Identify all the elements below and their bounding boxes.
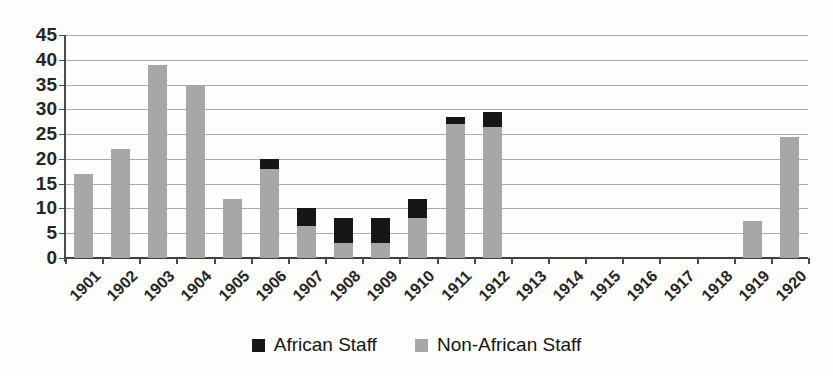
x-axis-tick-label: 1912 xyxy=(475,267,513,305)
x-axis-tick xyxy=(102,258,104,264)
x-axis-tick-label: 1903 xyxy=(141,267,179,305)
y-axis-tick-label: 15 xyxy=(0,173,57,195)
x-axis-tick-label: 1917 xyxy=(661,267,699,305)
legend-label: African Staff xyxy=(274,334,377,356)
x-axis-tick-label: 1905 xyxy=(215,267,253,305)
y-axis-tick-label: 25 xyxy=(0,123,57,145)
x-axis-tick-label: 1909 xyxy=(364,267,402,305)
x-axis-tick-label: 1910 xyxy=(401,267,439,305)
x-axis-tick-label: 1918 xyxy=(698,267,736,305)
x-axis-tick xyxy=(511,258,513,264)
x-axis-tick-label: 1915 xyxy=(587,267,625,305)
bar-segment-african-staff xyxy=(371,218,390,243)
bar-segment-african-staff xyxy=(408,199,427,219)
staff-stacked-bar-chart: 0510152025303540451901190219031904190519… xyxy=(0,0,833,376)
bar-segment-non-african-staff xyxy=(297,226,316,258)
legend-swatch-african-staff xyxy=(252,339,265,352)
x-axis-tick-label: 1913 xyxy=(512,267,550,305)
x-axis-tick xyxy=(437,258,439,264)
x-axis-tick xyxy=(734,258,736,264)
x-axis-tick xyxy=(251,258,253,264)
bar-segment-non-african-staff xyxy=(74,174,93,258)
bar-segment-non-african-staff xyxy=(111,149,130,258)
x-axis-tick xyxy=(288,258,290,264)
bar-segment-african-staff xyxy=(260,159,279,169)
y-axis-tick-label: 10 xyxy=(0,197,57,219)
bar-segment-non-african-staff xyxy=(186,85,205,258)
x-axis-tick xyxy=(808,258,810,264)
bar-segment-non-african-staff xyxy=(408,218,427,258)
gridline xyxy=(65,134,808,135)
gridline xyxy=(65,109,808,110)
x-axis-tick xyxy=(585,258,587,264)
x-axis-tick xyxy=(622,258,624,264)
x-axis-tick-label: 1908 xyxy=(326,267,364,305)
gridline xyxy=(65,85,808,86)
x-axis-tick xyxy=(548,258,550,264)
x-axis-tick-label: 1911 xyxy=(439,267,476,304)
x-axis-tick-label: 1902 xyxy=(104,267,142,305)
bar-segment-non-african-staff xyxy=(483,127,502,258)
legend: African StaffNon-African Staff xyxy=(0,334,833,356)
x-axis-tick-label: 1901 xyxy=(66,267,104,305)
bar-segment-non-african-staff xyxy=(446,124,465,258)
bar-segment-non-african-staff xyxy=(334,243,353,258)
bar-segment-african-staff xyxy=(446,117,465,124)
y-axis-tick-label: 0 xyxy=(0,247,57,269)
y-axis-line xyxy=(64,35,66,262)
x-axis-tick xyxy=(325,258,327,264)
x-axis-tick xyxy=(659,258,661,264)
x-axis-tick xyxy=(474,258,476,264)
legend-label: Non-African Staff xyxy=(437,334,581,356)
y-axis-tick-label: 30 xyxy=(0,98,57,120)
y-axis-tick-label: 5 xyxy=(0,222,57,244)
x-axis-tick xyxy=(65,258,67,264)
legend-swatch-non-african-staff xyxy=(415,339,428,352)
x-axis-tick xyxy=(697,258,699,264)
y-axis-tick-label: 45 xyxy=(0,24,57,46)
x-axis-tick-label: 1907 xyxy=(289,267,327,305)
gridline xyxy=(65,60,808,61)
bar-segment-african-staff xyxy=(483,112,502,127)
bar-segment-non-african-staff xyxy=(223,199,242,258)
gridline xyxy=(65,233,808,234)
x-axis-tick xyxy=(399,258,401,264)
x-axis-tick xyxy=(362,258,364,264)
bar-segment-african-staff xyxy=(334,218,353,243)
bar-segment-non-african-staff xyxy=(743,221,762,258)
gridline xyxy=(65,184,808,185)
legend-item-african-staff: African Staff xyxy=(252,334,377,356)
x-axis-tick xyxy=(214,258,216,264)
x-axis-tick-label: 1916 xyxy=(624,267,662,305)
y-axis-tick-label: 20 xyxy=(0,148,57,170)
x-axis-tick xyxy=(176,258,178,264)
bar-segment-african-staff xyxy=(297,208,316,225)
bar-segment-non-african-staff xyxy=(148,65,167,258)
bar-segment-non-african-staff xyxy=(260,169,279,258)
x-axis-tick-label: 1904 xyxy=(178,267,216,305)
y-axis-tick-label: 35 xyxy=(0,74,57,96)
x-axis-tick-label: 1914 xyxy=(549,267,587,305)
legend-item-non-african-staff: Non-African Staff xyxy=(415,334,581,356)
gridline xyxy=(65,159,808,160)
x-axis-tick-label: 1919 xyxy=(735,267,773,305)
gridline xyxy=(65,35,808,36)
gridline xyxy=(65,208,808,209)
y-axis-tick-label: 40 xyxy=(0,49,57,71)
x-axis-tick xyxy=(771,258,773,264)
x-axis-tick xyxy=(139,258,141,264)
x-axis-tick-label: 1906 xyxy=(252,267,290,305)
bar-segment-non-african-staff xyxy=(780,137,799,258)
bar-segment-non-african-staff xyxy=(371,243,390,258)
x-axis-tick-label: 1920 xyxy=(772,267,810,305)
